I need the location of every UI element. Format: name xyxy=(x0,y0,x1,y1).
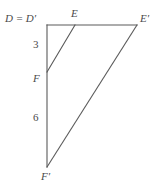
vertex-label-e: E xyxy=(71,8,78,19)
vertex-label-d-dprime: D = D′ xyxy=(5,13,36,24)
triangles-drawing: E' --> F' (passes through F) --> F --> F… xyxy=(0,0,160,186)
segment-hypotenuse-large xyxy=(47,25,137,167)
vertex-label-f: F xyxy=(33,73,40,84)
segment-hypotenuse-small xyxy=(47,25,75,72)
geometry-figure: E' --> F' (passes through F) --> F --> F… xyxy=(0,0,160,186)
side-length-label-ffprime: 6 xyxy=(33,112,39,123)
vertex-label-fprime: F′ xyxy=(41,171,50,182)
side-length-label-df: 3 xyxy=(33,39,39,50)
vertex-label-eprime: E′ xyxy=(140,13,149,24)
